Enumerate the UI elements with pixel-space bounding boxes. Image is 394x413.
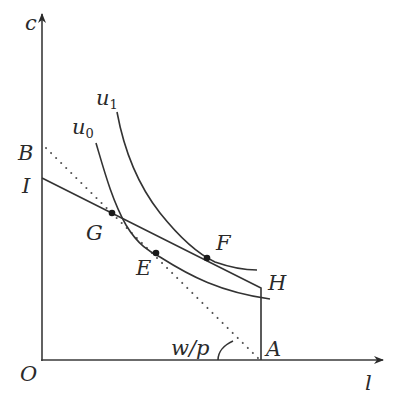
label-H: H bbox=[267, 271, 287, 295]
budget-constraint-IHA bbox=[42, 178, 261, 360]
indifference-curve-u0 bbox=[96, 143, 270, 299]
angle-arc bbox=[218, 341, 233, 360]
label-A: A bbox=[264, 337, 281, 361]
label-u0: u0 bbox=[72, 115, 94, 141]
label-E: E bbox=[135, 256, 151, 280]
diagram-canvas: c l O B I G E F H A u1 u0 w/p bbox=[0, 0, 394, 413]
point-F-dot bbox=[204, 255, 211, 262]
label-B: B bbox=[17, 141, 33, 165]
label-G: G bbox=[86, 221, 103, 245]
point-G-dot bbox=[109, 210, 116, 217]
label-I: I bbox=[21, 174, 31, 198]
label-u1: u1 bbox=[96, 86, 118, 112]
point-E-dot bbox=[153, 250, 160, 257]
origin-label: O bbox=[20, 362, 37, 386]
x-axis-label: l bbox=[365, 371, 372, 395]
indifference-curve-u1 bbox=[117, 112, 257, 270]
label-F: F bbox=[215, 231, 232, 255]
label-wage-price-ratio: w/p bbox=[171, 336, 210, 360]
y-axis-label: c bbox=[25, 11, 37, 35]
